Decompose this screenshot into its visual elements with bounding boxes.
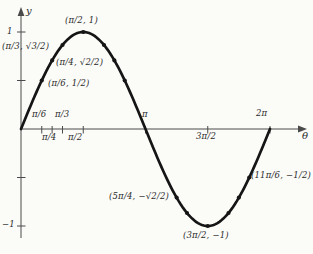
x-tick-label-2pi: 2π	[256, 109, 267, 118]
point-label-pi-3: (π/3, √3/2)	[2, 42, 49, 51]
curve-point-marker	[40, 78, 44, 82]
y-axis-arrow-icon	[18, 7, 25, 16]
point-label-3pi-2: (3π/2, −1)	[183, 231, 229, 240]
curve-point-marker	[60, 43, 64, 47]
curve-point-marker	[226, 211, 230, 215]
curve-point-marker	[112, 58, 116, 62]
curve-point-marker	[123, 78, 127, 82]
point-label-5pi-4: (5π/4, −√2/2)	[109, 192, 169, 201]
point-label-pi-2-1: (π/2, 1)	[65, 16, 98, 25]
curve-point-marker	[102, 43, 106, 47]
x-axis-label: θ	[302, 131, 308, 140]
y-tick-label-1: 1	[7, 27, 13, 36]
point-label-pi-4: (π/4, √2/2)	[56, 58, 103, 67]
sine-curve-figure: y θ 1 −1 π/6 π/4 π/3 π/2 π 3π/2 2π (π/2,…	[0, 0, 313, 254]
curve-point-marker	[185, 211, 189, 215]
point-label-11pi-6: (11π/6, −1/2)	[251, 171, 311, 180]
y-axis-label: y	[26, 6, 32, 15]
point-label-pi-6: (π/6, 1/2)	[48, 79, 90, 88]
curve-point-marker	[175, 195, 179, 199]
curve-point-marker	[50, 58, 54, 62]
curve-point-marker	[206, 224, 210, 228]
x-tick-label-pi: π	[142, 110, 148, 119]
x-tick-label-pi-3: π/3	[55, 110, 69, 119]
x-tick-label-3pi-2: 3π/2	[196, 132, 216, 141]
x-tick-label-pi-2: π/2	[68, 133, 82, 142]
y-tick-label-neg-1: −1	[2, 220, 15, 229]
curve-point-marker	[81, 30, 85, 34]
curve-point-marker	[237, 195, 241, 199]
x-tick-label-pi-4: π/4	[42, 133, 56, 142]
x-tick-label-pi-6: π/6	[32, 110, 46, 119]
plot-canvas	[0, 0, 313, 254]
